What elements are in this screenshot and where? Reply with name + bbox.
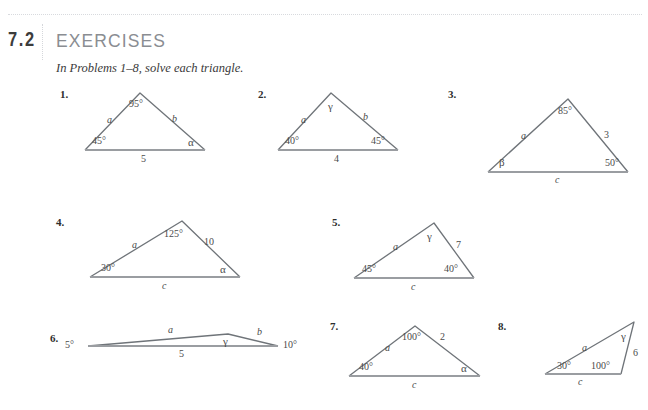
label-left-side: a	[168, 324, 173, 335]
problem-2: 2. γ 40° 45° a b 4	[258, 86, 418, 171]
label-base: c	[578, 376, 582, 387]
triangle-figure-4	[56, 214, 256, 302]
label-right-angle: 50°	[605, 157, 619, 168]
label-right-angle: 40°	[444, 263, 458, 274]
label-right-side: b	[363, 111, 368, 122]
label-apex-angle: γ	[223, 335, 228, 347]
label-apex-angle: γ	[427, 230, 432, 242]
label-apex-angle: 85°	[558, 105, 572, 116]
label-left-angle: 45°	[92, 135, 106, 146]
label-right-angle: α	[220, 263, 226, 275]
label-base: 5	[179, 348, 184, 359]
label-left-angle: β	[499, 156, 505, 168]
instructions-text: In Problems 1–8, solve each triangle.	[56, 61, 243, 76]
label-base: 5	[141, 153, 146, 164]
section-header: 7.2 EXERCISES	[0, 26, 648, 60]
section-number: 7.2	[8, 28, 36, 51]
page-title: EXERCISES	[56, 30, 166, 52]
label-right-side: 3	[604, 129, 609, 140]
label-right-side: b	[257, 326, 262, 337]
label-base: c	[555, 174, 559, 185]
label-apex-angle: γ	[621, 330, 626, 342]
triangle-figure-6	[50, 318, 310, 368]
label-left-side: a	[582, 342, 587, 353]
problem-6: 6. γ 5° 10° a b 5	[50, 318, 310, 368]
label-apex-angle: 125°	[164, 228, 183, 239]
problem-3: 3. 85° β 50° a 3 c	[448, 86, 640, 186]
label-right-side: b	[172, 113, 177, 124]
label-left-angle: 45°	[362, 263, 376, 274]
triangle-figure-3	[448, 86, 640, 186]
label-left-angle: 40°	[359, 361, 373, 372]
label-apex-angle: 100°	[402, 331, 421, 342]
label-base: c	[412, 379, 416, 390]
label-left-angle: 5°	[65, 339, 74, 350]
label-left-side: a	[521, 130, 526, 141]
section-divider	[42, 24, 43, 60]
label-right-side: 7	[456, 239, 461, 250]
label-left-side: a	[385, 342, 390, 353]
label-right-angle: α	[461, 362, 467, 374]
label-base: c	[162, 280, 166, 291]
label-apex-angle: 95°	[129, 98, 143, 109]
label-right-side: 10	[204, 236, 214, 247]
problem-4: 4. 125° 30° α a 10 c	[56, 214, 256, 302]
label-left-side: a	[132, 239, 137, 250]
label-right-angle: 100°	[591, 360, 610, 371]
label-right-side: 6	[633, 347, 638, 358]
label-apex-angle: γ	[328, 100, 333, 112]
label-right-angle: 45°	[371, 135, 385, 146]
label-left-angle: 30°	[557, 360, 571, 371]
label-right-side: 2	[440, 331, 445, 342]
label-base: c	[411, 281, 415, 292]
label-right-angle: α	[188, 136, 194, 148]
label-right-angle: 10°	[283, 339, 297, 350]
problem-7: 7. 100° 40° α a 2 c	[330, 318, 500, 398]
label-base: 4	[334, 153, 339, 164]
label-left-angle: 30°	[101, 262, 115, 273]
label-left-side: a	[107, 114, 112, 125]
page-top-dotted-rule	[8, 14, 642, 15]
label-left-angle: 40°	[285, 135, 299, 146]
problem-1: 1. 95° 45° α a b 5	[60, 86, 230, 171]
problem-5: 5. γ 45° 40° a 7 c	[332, 214, 492, 302]
label-left-side: a	[301, 114, 306, 125]
problem-8: 8. γ 30° 100° a 6 c	[498, 318, 648, 398]
label-left-side: a	[393, 241, 398, 252]
